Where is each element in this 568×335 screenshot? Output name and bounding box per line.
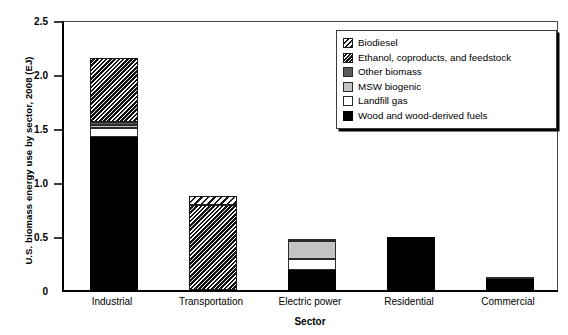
bar-commercial (486, 278, 534, 290)
chart-legend: Biodiesel Ethanol, coproducts, and feeds… (336, 30, 557, 129)
x-tick-label-commercial: Commercial (448, 297, 568, 307)
legend-item-ethanol: Ethanol, coproducts, and feedstock (343, 51, 550, 66)
legend-swatch-landfill-gas-icon (343, 96, 353, 106)
segment-industrial-landfill-gas (90, 128, 138, 137)
legend-swatch-ethanol-icon (343, 53, 353, 63)
segment-electric-power-other-biomass (288, 239, 336, 241)
segment-industrial-ethanol (90, 58, 138, 122)
legend-label-msw-biogenic: MSW biogenic (358, 82, 421, 92)
legend-item-wood: Wood and wood-derived fuels (343, 109, 550, 124)
segment-electric-power-msw-biogenic (288, 241, 336, 258)
legend-label-ethanol: Ethanol, coproducts, and feedstock (358, 53, 511, 63)
y-tick-label-1.0: 1.0 (8, 179, 48, 189)
legend-label-other-biomass: Other biomass (358, 67, 422, 77)
legend-item-other-biomass: Other biomass (343, 65, 550, 80)
bar-electric-power (288, 239, 336, 290)
segment-industrial-msw-biogenic (90, 125, 138, 128)
y-tick-label-0: 0 (8, 287, 48, 297)
segment-transportation-ethanol (189, 205, 237, 290)
legend-item-landfill-gas: Landfill gas (343, 94, 550, 109)
legend-label-biodiesel: Biodiesel (358, 38, 398, 48)
y-tick-label-2.5: 2.5 (8, 17, 48, 27)
y-tick-label-2.0: 2.0 (8, 71, 48, 81)
legend-label-wood: Wood and wood-derived fuels (358, 111, 487, 121)
segment-transportation-biodiesel (189, 196, 237, 205)
bar-transportation (189, 196, 237, 290)
segment-electric-power-landfill-gas (288, 259, 336, 270)
bar-industrial (90, 58, 138, 290)
legend-swatch-other-biomass-icon (343, 67, 353, 77)
bar-residential (387, 237, 435, 290)
segment-industrial-other-biomass (90, 122, 138, 125)
segment-electric-power-wood (288, 270, 336, 291)
y-tick-label-0.5: 0.5 (8, 233, 48, 243)
y-tick-label-1.5: 1.5 (8, 125, 48, 135)
segment-commercial-other-biomass (486, 277, 534, 279)
segment-industrial-wood (90, 137, 138, 290)
legend-item-msw-biogenic: MSW biogenic (343, 80, 550, 95)
legend-swatch-biodiesel-icon (343, 38, 353, 48)
segment-residential-wood (387, 237, 435, 290)
legend-label-landfill-gas: Landfill gas (358, 96, 408, 106)
segment-commercial-wood (486, 279, 534, 290)
bar-chart-figure: U.S. biomass energy use by sector, 2008 … (0, 0, 568, 335)
legend-swatch-wood-icon (343, 111, 353, 121)
x-axis-title: Sector (62, 316, 558, 327)
legend-item-biodiesel: Biodiesel (343, 36, 550, 51)
legend-swatch-msw-biogenic-icon (343, 82, 353, 92)
